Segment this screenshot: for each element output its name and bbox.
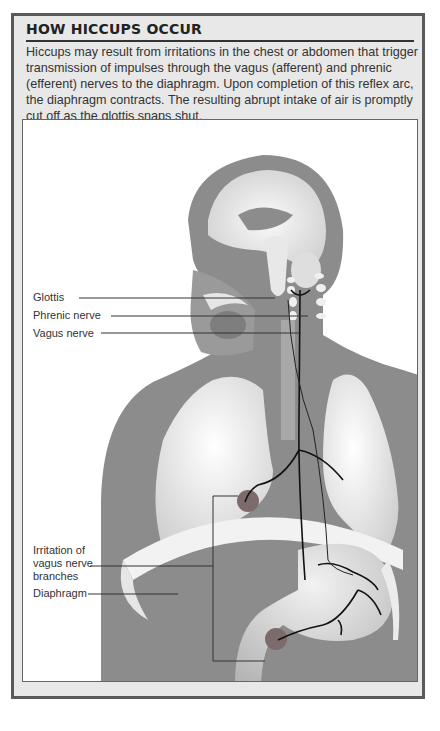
label-diaphragm: Diaphragm <box>33 587 87 600</box>
label-irritation-line2: vagus nerve <box>33 557 93 570</box>
label-phrenic-nerve: Phrenic nerve <box>33 309 101 322</box>
anatomy-illustration: Glottis Phrenic nerve Vagus nerve Irrita… <box>22 119 418 682</box>
figure-title: HOW HICCUPS OCCUR <box>26 21 202 37</box>
label-glottis: Glottis <box>33 291 64 304</box>
irritation-spot-lung <box>237 490 259 512</box>
label-irritation: Irritation of vagus nerve branches <box>33 544 93 583</box>
irritation-spot-stomach <box>265 628 287 650</box>
label-irritation-line3: branches <box>33 570 93 583</box>
label-vagus-nerve: Vagus nerve <box>33 327 94 340</box>
figure-frame: HOW HICCUPS OCCUR Hiccups may result fro… <box>11 13 425 699</box>
label-irritation-line1: Irritation of <box>33 544 93 557</box>
title-rule <box>26 40 414 42</box>
figure-caption: Hiccups may result from irritations in t… <box>26 44 418 124</box>
